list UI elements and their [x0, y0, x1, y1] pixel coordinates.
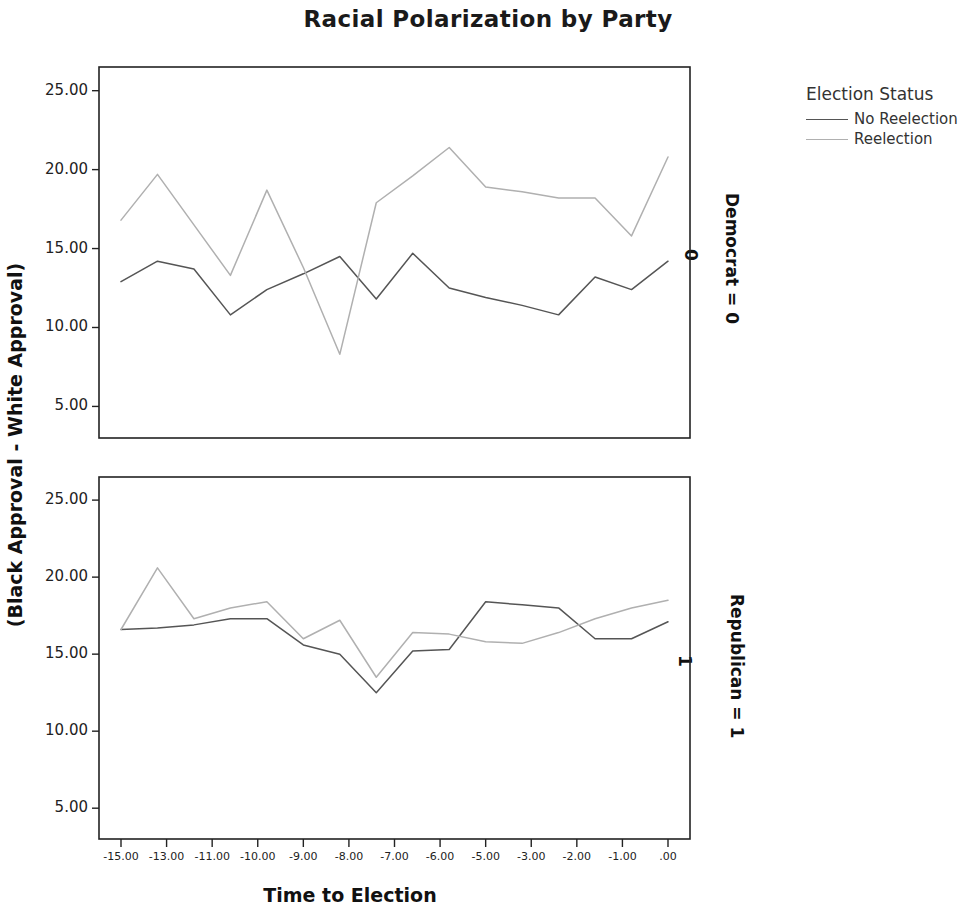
y-tick-label: 20.00 [22, 567, 88, 585]
x-tick-label: -5.00 [460, 850, 512, 863]
x-tick-label: -10.00 [232, 850, 284, 863]
x-tick-label: .00 [642, 850, 694, 863]
x-tick-label: -7.00 [369, 850, 421, 863]
y-tick-label: 15.00 [22, 644, 88, 662]
y-tick-label: 10.00 [22, 317, 88, 335]
y-tick-label: 25.00 [22, 490, 88, 508]
y-tick-label: 5.00 [22, 798, 88, 816]
panel-frame [99, 67, 690, 438]
x-tick-label: -9.00 [277, 850, 329, 863]
x-tick-label: -8.00 [323, 850, 375, 863]
chart-root: Racial Polarization by Party (Black Appr… [0, 0, 976, 914]
y-tick-label: 25.00 [22, 81, 88, 99]
series-line-reelection [121, 148, 668, 355]
y-tick-label: 10.00 [22, 721, 88, 739]
panel-republican [92, 477, 690, 847]
x-tick-label: -3.00 [505, 850, 557, 863]
x-tick-label: -15.00 [95, 850, 147, 863]
y-tick-label: 5.00 [22, 396, 88, 414]
plot-area [0, 0, 976, 914]
x-tick-label: -2.00 [551, 850, 603, 863]
y-tick-label: 20.00 [22, 160, 88, 178]
y-tick-label: 15.00 [22, 239, 88, 257]
x-tick-label: -6.00 [414, 850, 466, 863]
series-line-no-reelection [121, 253, 668, 315]
panel-democrat [92, 67, 690, 438]
x-tick-label: -11.00 [186, 850, 238, 863]
x-tick-label: -1.00 [596, 850, 648, 863]
x-tick-label: -13.00 [141, 850, 193, 863]
panel-frame [99, 477, 690, 839]
series-line-reelection [121, 568, 668, 677]
